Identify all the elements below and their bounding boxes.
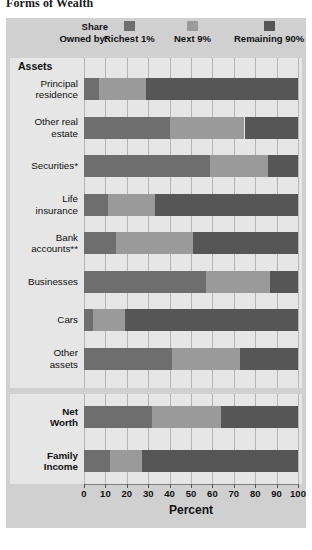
chart-row-securities: Securities*	[10, 155, 302, 177]
bar-segment-remaining-90	[155, 194, 298, 216]
bar-segment-remaining-90	[146, 78, 298, 100]
chart-row-family-income: FamilyIncome	[10, 450, 302, 472]
summary-plot-area: NetWorthFamilyIncome	[10, 394, 302, 484]
summary-group: NetWorthFamilyIncome	[10, 394, 302, 484]
legend-item-remaining-90: Remaining 90%	[234, 21, 304, 44]
row-label-line-0: Net	[10, 406, 78, 417]
gridline-100	[298, 58, 299, 388]
x-tick-label-90: 90	[271, 488, 282, 499]
gridline-0	[84, 58, 85, 388]
stacked-bar-bank-accounts	[84, 232, 298, 254]
bar-segment-remaining-90	[240, 348, 298, 370]
legend-item-next-9: Next 9%	[174, 21, 211, 44]
row-label-line-0: Securities*	[10, 160, 78, 171]
row-label-cars: Cars	[10, 314, 78, 325]
row-label-bank-accounts: Bankaccounts**	[10, 232, 78, 254]
stacked-bar-securities	[84, 155, 298, 177]
row-label-principal-residence: Principalresidence	[10, 78, 78, 100]
row-label-line-0: Businesses	[10, 276, 78, 287]
chart-row-bank-accounts: Bankaccounts**	[10, 232, 302, 254]
x-tick-label-20: 20	[122, 488, 133, 499]
bar-segment-next-9	[170, 117, 245, 139]
row-label-other-assets: Otherassets	[10, 347, 78, 369]
gridline-90	[277, 58, 278, 388]
row-label-businesses: Businesses	[10, 276, 78, 287]
legend-caption-line2: Owned by:	[12, 33, 108, 45]
bar-segment-next-9	[116, 232, 193, 254]
x-tick-label-30: 30	[143, 488, 154, 499]
bar-segment-richest-1	[84, 309, 93, 331]
row-label-line-0: Other	[10, 347, 78, 358]
chart-row-life-insurance: Lifeinsurance	[10, 194, 302, 216]
row-label-net-worth: NetWorth	[10, 406, 78, 428]
gridline-40	[170, 58, 171, 388]
x-tick-label-70: 70	[229, 488, 240, 499]
x-tick-label-80: 80	[250, 488, 261, 499]
bar-segment-richest-1	[84, 232, 116, 254]
legend-swatch-richest-1	[124, 21, 135, 31]
bar-segment-richest-1	[84, 117, 170, 139]
bar-segment-remaining-90	[245, 117, 299, 139]
stacked-bar-other-assets	[84, 348, 298, 370]
x-tick-label-0: 0	[81, 488, 86, 499]
row-label-line-1: assets	[10, 359, 78, 370]
stacked-bar-family-income	[84, 450, 298, 472]
row-label-line-0: Principal	[10, 78, 78, 89]
x-tick-label-40: 40	[164, 488, 175, 499]
gridline-10	[105, 58, 106, 388]
bar-segment-next-9	[110, 450, 142, 472]
row-label-other-real-estate: Other realestate	[10, 116, 78, 138]
gridline-20	[127, 58, 128, 388]
gridline-60	[212, 58, 213, 388]
chart-row-principal-residence: Principalresidence	[10, 78, 302, 100]
chart-row-other-real-estate: Other realestate	[10, 117, 302, 139]
legend-swatch-remaining-90	[264, 21, 275, 31]
stacked-bar-net-worth	[84, 406, 298, 428]
gridline-80	[255, 58, 256, 388]
legend-label-richest-1: Richest 1%	[104, 33, 155, 44]
bar-segment-remaining-90	[193, 232, 298, 254]
bar-segment-remaining-90	[221, 406, 298, 428]
chart-title: Forms of Wealth	[6, 0, 93, 11]
chart-row-businesses: Businesses	[10, 271, 302, 293]
row-label-line-1: Worth	[10, 417, 78, 428]
legend-caption: Share Owned by:	[12, 21, 108, 44]
bar-segment-richest-1	[84, 78, 99, 100]
gridline-50	[191, 58, 192, 388]
stacked-bar-businesses	[84, 271, 298, 293]
bar-segment-richest-1	[84, 450, 110, 472]
row-label-line-1: estate	[10, 128, 78, 139]
row-label-line-1: residence	[10, 89, 78, 100]
x-axis: 0102030405060708090100 Percent	[10, 484, 302, 528]
row-label-line-0: Cars	[10, 314, 78, 325]
row-label-line-0: Family	[10, 450, 78, 461]
bar-segment-next-9	[210, 155, 268, 177]
bar-segment-richest-1	[84, 155, 210, 177]
row-label-line-1: Income	[10, 461, 78, 472]
stacked-bar-cars	[84, 309, 298, 331]
chart-panel: Share Owned by: Richest 1% Next 9% Remai…	[6, 18, 306, 528]
chart-row-cars: Cars	[10, 309, 302, 331]
row-label-line-1: insurance	[10, 205, 78, 216]
row-label-line-0: Other real	[10, 116, 78, 127]
stacked-bar-life-insurance	[84, 194, 298, 216]
legend-item-richest-1: Richest 1%	[104, 21, 155, 44]
bar-segment-next-9	[152, 406, 220, 428]
row-label-line-1: accounts**	[10, 243, 78, 254]
x-tick-label-100: 100	[290, 488, 306, 499]
row-label-family-income: FamilyIncome	[10, 450, 78, 472]
bar-segment-richest-1	[84, 348, 172, 370]
stacked-bar-principal-residence	[84, 78, 298, 100]
gridline-30	[148, 58, 149, 388]
bar-segment-richest-1	[84, 406, 152, 428]
legend-label-next-9: Next 9%	[174, 33, 211, 44]
chart-row-other-assets: Otherassets	[10, 348, 302, 370]
bar-segment-remaining-90	[142, 450, 298, 472]
x-axis-label: Percent	[84, 503, 298, 517]
bar-segment-next-9	[93, 309, 125, 331]
row-label-line-0: Life	[10, 193, 78, 204]
legend-label-remaining-90: Remaining 90%	[234, 33, 304, 44]
assets-group: Assets PrincipalresidenceOther realestat…	[10, 58, 302, 388]
bar-segment-next-9	[172, 348, 240, 370]
bar-segment-remaining-90	[268, 155, 298, 177]
